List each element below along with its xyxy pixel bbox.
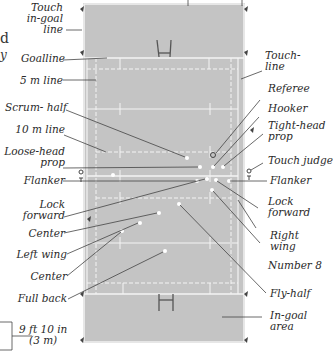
label-fly-half: Fly-half	[270, 288, 310, 299]
label-number-8: Number 8	[268, 260, 322, 271]
label-scrum-half: Scrum- half	[5, 102, 67, 113]
label-loose-head-prop: Loose-head prop	[4, 146, 65, 168]
label-lock-forward-left: Lock forward	[23, 199, 65, 221]
label-touch-in-goal-line: Touch in-goal line	[27, 2, 63, 35]
label-hooker: Hooker	[268, 103, 307, 114]
cut-off-text-2: y	[0, 48, 7, 62]
label-tight-head-prop: Tight-head prop	[268, 120, 326, 142]
label-touch-line: Touch- line	[265, 50, 300, 72]
label-referee: Referee	[268, 83, 310, 94]
label-lock-forward-right: Lock forward	[268, 196, 310, 218]
label-goalline: Goalline	[21, 53, 65, 64]
scale-legend: 9 ft 10 in (3 m)	[19, 324, 67, 346]
label-full-back: Full back	[18, 293, 67, 304]
label-center-1: Center	[29, 228, 65, 239]
field-surface	[83, 3, 245, 343]
label-left-wing: Left wing	[17, 249, 67, 260]
label-flanker-right: Flanker	[270, 175, 311, 186]
label-10m-line: 10 m line	[15, 124, 65, 135]
cut-off-text-1: d	[0, 30, 9, 46]
label-flanker-left: Flanker	[24, 175, 65, 186]
label-5m-line: 5 m line	[20, 75, 63, 86]
label-touch-judge: Touch judge	[268, 155, 333, 166]
label-in-goal-area: In-goal area	[270, 310, 307, 332]
label-right-wing: Right wing	[270, 230, 299, 252]
label-center-2: Center	[31, 271, 67, 282]
scale-bracket	[0, 322, 12, 350]
